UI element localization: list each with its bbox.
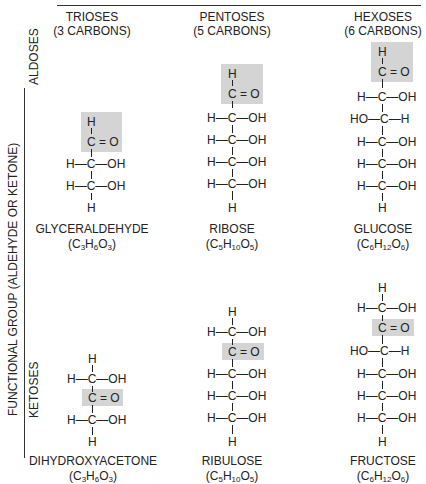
label-ribulose: RIBULOSE (C5H10O5): [162, 454, 302, 484]
column-title: HEXOSES: [323, 10, 426, 24]
carbon: H—C—OH: [207, 411, 266, 425]
molecule-formula: (C6H12O6): [313, 237, 426, 255]
atom-h: H: [87, 115, 96, 129]
label-dihydroxyacetone: DIHYDROXYACETONE (C3H6O3): [23, 454, 163, 484]
bond: [232, 191, 233, 200]
bond: [232, 359, 233, 367]
bond: [382, 126, 383, 135]
molecule-name: RIBOSE: [162, 222, 302, 237]
carbon: H—C—OH: [207, 133, 266, 147]
carbon: H—C—OH: [207, 177, 266, 191]
carbonyl: C = O: [88, 391, 120, 405]
label-glyceraldehyde: GLYCERALDEHYDE (C3H6O3): [22, 222, 162, 255]
bond: [92, 427, 93, 435]
label-glucose: GLUCOSE (C6H12O6): [313, 222, 426, 255]
molecule-formula: (C3H6O3): [23, 469, 163, 484]
column-title: PENTOSES: [172, 10, 292, 24]
bond: [382, 358, 383, 367]
column-subtitle: (6 CARBONS): [323, 24, 426, 38]
carbon: H—C—OH: [67, 372, 126, 386]
label-ribose: RIBOSE (C5H10O5): [162, 222, 302, 255]
column-header-trioses: TRIOSES (3 CARBONS): [32, 10, 152, 38]
molecule-formula: (C5H10O5): [162, 469, 302, 484]
molecule-name: RIBULOSE: [162, 454, 302, 469]
carbon: H—C—OH: [207, 367, 266, 381]
bond: [382, 403, 383, 411]
bond: [91, 193, 92, 200]
carbon: H—C—OH: [357, 135, 416, 149]
bond: [91, 128, 92, 134]
bond: [92, 365, 93, 372]
molecule-formula: (C3H6O3): [22, 237, 162, 255]
bond: [232, 403, 233, 411]
bond: [92, 405, 93, 413]
carbon: H—C—OH: [357, 367, 416, 381]
bond: [91, 149, 92, 157]
bond: [232, 80, 233, 86]
carbon: H—C—OH: [207, 111, 266, 125]
molecule-name: GLUCOSE: [313, 222, 426, 237]
bond: [382, 193, 383, 201]
molecule-name: GLYCERALDEHYDE: [22, 222, 162, 237]
axis-rule: [24, 88, 25, 458]
molecule-formula: (C6H12O6): [313, 469, 426, 484]
carbonyl: C = O: [378, 65, 410, 79]
bond: [382, 104, 383, 112]
atom-h: H: [88, 352, 97, 366]
carbon: H—C—OH: [357, 301, 416, 315]
row-label-ketoses: KETOSES: [27, 362, 41, 418]
carbon: H—C—OH: [357, 389, 416, 403]
bond: [232, 318, 233, 325]
carbon: H—C—OH: [357, 157, 416, 171]
carbonyl: C = O: [87, 135, 119, 149]
atom-h: H: [378, 201, 387, 215]
carbon: H—C—OH: [357, 90, 416, 104]
row-axis-label: FUNCTIONAL GROUP (ALDEHYDE OR KETONE): [6, 143, 20, 416]
atom-h: H: [88, 435, 97, 449]
carbonyl: C = O: [228, 87, 260, 101]
label-fructose: FRUCTOSE (C6H12O6): [313, 454, 426, 484]
atom-h: H: [228, 305, 237, 319]
atom-h: H: [228, 201, 237, 215]
atom-h: H: [378, 435, 387, 449]
bond: [232, 381, 233, 389]
carbonyl: C = O: [228, 345, 260, 359]
carbon: HO—C—H: [350, 112, 409, 126]
bond: [382, 381, 383, 389]
bond: [382, 294, 383, 301]
column-subtitle: (5 CARBONS): [172, 24, 292, 38]
atom-h: H: [378, 45, 387, 59]
bond: [232, 125, 233, 133]
atom-h: H: [228, 67, 237, 81]
bond: [232, 425, 233, 434]
bond: [382, 149, 383, 157]
molecule-name: DIHYDROXYACETONE: [23, 454, 163, 469]
bond: [382, 58, 383, 64]
carbon: H—C—OH: [67, 413, 126, 427]
carbon: HO—C—H: [350, 344, 409, 358]
carbon: H—C—OH: [207, 389, 266, 403]
carbonyl: C = O: [378, 321, 410, 335]
carbon: H—C—OH: [66, 179, 125, 193]
carbon: H—C—OH: [357, 411, 416, 425]
molecule-name: FRUCTOSE: [313, 454, 426, 469]
molecule-formula: (C5H10O5): [162, 237, 302, 255]
atom-h: H: [378, 281, 387, 295]
column-title: TRIOSES: [32, 10, 152, 24]
carbon: H—C—OH: [207, 155, 266, 169]
bond: [232, 147, 233, 155]
column-subtitle: (3 CARBONS): [32, 24, 152, 38]
top-rule: [57, 5, 421, 6]
bond: [232, 169, 233, 177]
chiral-carbon: H—C—OH: [66, 157, 125, 171]
atom-h: H: [87, 201, 96, 215]
carbon: H—C—OH: [357, 179, 416, 193]
row-label-aldoses: ALDOSES: [27, 28, 41, 85]
bond: [232, 101, 233, 108]
column-header-hexoses: HEXOSES (6 CARBONS): [323, 10, 426, 38]
bond: [91, 171, 92, 179]
bond: [382, 79, 383, 88]
bond: [382, 425, 383, 434]
bond: [382, 171, 383, 179]
atom-h: H: [228, 435, 237, 449]
